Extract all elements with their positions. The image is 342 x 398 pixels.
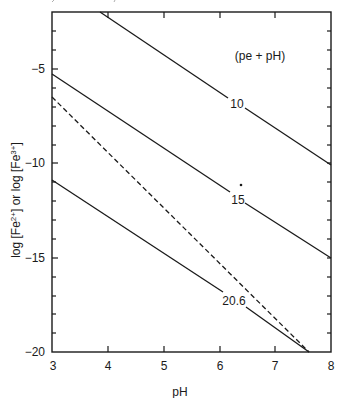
line-label-20-6: 20.6 — [222, 294, 246, 308]
cropped-caption-fragment — [52, 0, 115, 2]
x-axis-title: pH — [172, 385, 187, 398]
plot-frame — [52, 12, 331, 352]
x-tick-label: 4 — [105, 359, 112, 373]
stray-dot — [240, 184, 243, 187]
y-tick-label: −5 — [31, 62, 45, 76]
line-label-10: 10 — [230, 97, 244, 111]
x-ticks-top — [108, 12, 275, 18]
series-line-20-6 — [52, 180, 309, 352]
line-label-15: 15 — [231, 193, 245, 207]
x-tick-label: 7 — [272, 359, 279, 373]
y-tick-label: −10 — [25, 156, 46, 170]
legend-title: (pe + pH) — [235, 49, 285, 63]
x-tick-labels: 3 4 5 6 7 8 — [50, 359, 335, 373]
x-tick-label: 6 — [217, 359, 224, 373]
series-dashed-line — [52, 97, 309, 352]
chart: −5 −10 −15 −20 3 4 5 6 7 8 pH log [Fe2+]… — [0, 0, 342, 398]
series-line-15 — [52, 74, 331, 258]
y-tick-label: −15 — [25, 251, 46, 265]
series-line-10 — [100, 12, 331, 165]
y-tick-label: −20 — [25, 345, 46, 359]
x-tick-label: 8 — [328, 359, 335, 373]
x-tick-label: 3 — [50, 359, 57, 373]
y-tick-labels: −5 −10 −15 −20 — [25, 62, 46, 359]
y-axis-title: log [Fe2+] or log [Fe3+] — [9, 142, 23, 258]
x-tick-label: 5 — [161, 359, 168, 373]
x-ticks-bottom — [108, 346, 275, 352]
